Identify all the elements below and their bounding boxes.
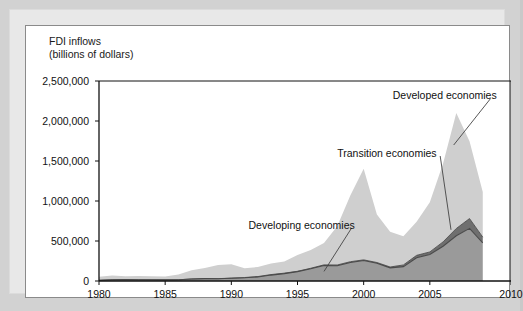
- x-tick-label: 1990: [220, 288, 243, 300]
- annotation-label: Developed economies: [393, 89, 497, 101]
- annotation-label: Developing economies: [249, 219, 355, 231]
- figure-bevel: FDI inflows(billions of dollars) 0500,00…: [9, 9, 505, 294]
- x-tick-label: 2000: [352, 288, 375, 300]
- x-tick-label: 1985: [153, 288, 176, 300]
- x-tick-label: 1995: [286, 288, 309, 300]
- x-tick-label: 2005: [418, 288, 441, 300]
- x-tick-label: 1980: [87, 288, 110, 300]
- annotation-label: Transition economies: [337, 147, 436, 159]
- x-axis-tick-labels: 1980198519901995200020052010: [26, 26, 511, 299]
- chart-panel: FDI inflows(billions of dollars) 0500,00…: [25, 25, 510, 298]
- x-tick-label: 2010: [499, 288, 522, 300]
